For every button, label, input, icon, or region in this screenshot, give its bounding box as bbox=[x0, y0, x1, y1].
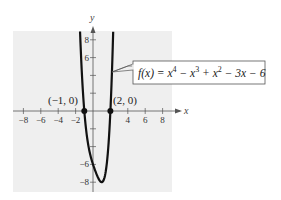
x-tick-label: −6 bbox=[36, 115, 46, 125]
y-tick-label: 8 bbox=[85, 35, 90, 45]
x-axis-label: x bbox=[183, 105, 189, 116]
point-label-2-0: (2, 0) bbox=[113, 94, 137, 107]
function-graph: x −8−6−4−2468 y 86−6−8 (−1, 0) (2, 0) f(… bbox=[0, 0, 281, 200]
function-label-callout: f(x) = x4 − x3 + x2 − 3x − 6 bbox=[112, 61, 266, 84]
x-tick-label: 8 bbox=[160, 115, 165, 125]
x-tick-label: 4 bbox=[126, 115, 131, 125]
fn-m1: − x bbox=[177, 67, 197, 79]
point-neg1-0 bbox=[81, 108, 87, 114]
point-2-0 bbox=[107, 108, 113, 114]
fn-tail: − 3x − 6 bbox=[222, 67, 266, 79]
plot-background bbox=[13, 31, 172, 192]
fn-lhs: f(x) = x bbox=[138, 67, 173, 80]
function-label: f(x) = x4 − x3 + x2 − 3x − 6 bbox=[138, 65, 266, 80]
x-tick-label: −4 bbox=[53, 115, 63, 125]
x-axis-arrow-icon bbox=[175, 109, 182, 114]
x-tick-label: −8 bbox=[19, 115, 29, 125]
x-tick-label: 6 bbox=[143, 115, 148, 125]
y-tick-label: 6 bbox=[85, 53, 90, 63]
point-label-neg1-0: (−1, 0) bbox=[48, 94, 78, 107]
y-tick-label: −6 bbox=[79, 159, 89, 169]
y-axis-label: y bbox=[89, 12, 95, 23]
fn-m2: + x bbox=[199, 67, 219, 79]
x-tick-label: −2 bbox=[71, 115, 81, 125]
y-axis-arrow-icon bbox=[91, 26, 96, 33]
y-tick-label: −8 bbox=[79, 177, 89, 187]
